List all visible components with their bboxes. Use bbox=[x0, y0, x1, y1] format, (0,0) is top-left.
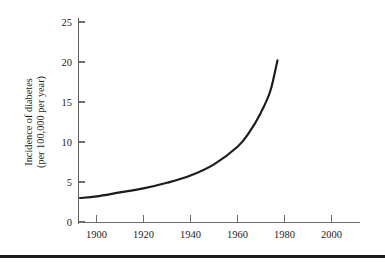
y-axis-title: Incidence of diabetes (per 100,000 per y… bbox=[23, 76, 47, 168]
y-axis-ticks bbox=[79, 22, 86, 222]
y-axis-tick-labels: 0 5 10 15 20 25 bbox=[62, 17, 73, 228]
diabetes-incidence-line-chart: 0 5 10 15 20 25 1900 1920 1940 1960 1980… bbox=[0, 0, 385, 270]
y-tick-label: 0 bbox=[67, 217, 72, 228]
incidence-curve bbox=[80, 60, 277, 198]
y-tick-label: 20 bbox=[62, 57, 73, 68]
x-axis-ticks bbox=[97, 215, 332, 223]
x-tick-label: 1940 bbox=[180, 229, 201, 240]
x-tick-label: 1980 bbox=[274, 229, 295, 240]
y-tick-label: 15 bbox=[62, 97, 73, 108]
y-axis-title-line2: (per 100,000 per year) bbox=[35, 76, 47, 168]
x-tick-label: 1900 bbox=[86, 229, 107, 240]
y-tick-label: 10 bbox=[62, 137, 73, 148]
y-tick-label: 25 bbox=[62, 17, 73, 28]
x-tick-label: 2000 bbox=[321, 229, 342, 240]
x-tick-label: 1920 bbox=[133, 229, 154, 240]
x-axis-tick-labels: 1900 1920 1940 1960 1980 2000 bbox=[86, 229, 342, 240]
bottom-divider-rule bbox=[0, 255, 385, 258]
y-tick-label: 5 bbox=[67, 177, 72, 188]
y-axis-title-line1: Incidence of diabetes bbox=[23, 78, 34, 165]
x-tick-label: 1960 bbox=[227, 229, 248, 240]
chart-figure: 0 5 10 15 20 25 1900 1920 1940 1960 1980… bbox=[0, 0, 385, 270]
